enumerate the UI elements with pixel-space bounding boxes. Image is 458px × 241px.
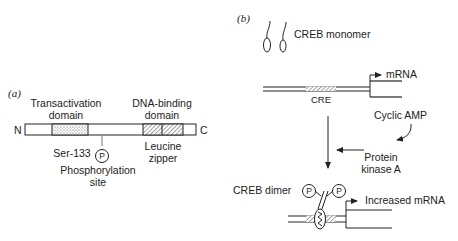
panel-b: (b) CREB monomer CRE mRNA Cyclic AMP Pro… [233, 12, 445, 229]
pka-label-2: kinase A [361, 163, 401, 175]
pka-label-1: Protein [364, 151, 397, 163]
increased-mrna-label: Increased mRNA [365, 194, 445, 206]
transactivation-label-1: Transactivation [31, 97, 102, 109]
creb-dimer-icon: P P [288, 185, 392, 230]
creb-monomer-label: CREB monomer [294, 28, 371, 40]
cyclic-amp-label: Cyclic AMP [374, 109, 427, 121]
increased-transcription-arrow-icon [346, 201, 357, 210]
panel-b-label: (b) [237, 12, 250, 25]
creb-monomer-icon [264, 21, 287, 52]
panel-a-label: (a) [8, 87, 21, 100]
dna-binding-label-2: domain [145, 109, 180, 121]
dimer-p-right-symbol: P [336, 186, 342, 196]
c-terminus-label: C [200, 124, 208, 136]
panel-a: (a) Transactivation domain DNA-binding d… [8, 87, 208, 188]
ser133-label: Ser-133 [53, 147, 91, 159]
transactivation-domain-region [52, 124, 88, 135]
transcription-start-arrow-icon [370, 75, 381, 81]
n-terminus-label: N [14, 124, 22, 136]
creb-dimer-label: CREB dimer [233, 184, 292, 196]
transactivation-label-2: domain [49, 109, 84, 121]
cre-label: CRE [311, 94, 331, 105]
camp-to-pka-arrow-icon [397, 124, 411, 140]
dna-with-cre [263, 81, 402, 97]
dimer-p-left-symbol: P [306, 186, 312, 196]
leucine-label-1: Leucine [145, 140, 182, 152]
creb-diagram: (a) Transactivation domain DNA-binding d… [0, 0, 458, 241]
dna-binding-domain-region [143, 124, 183, 135]
cre-element [306, 87, 336, 92]
phospho-p-symbol: P [99, 151, 105, 161]
phosphorylation-label-1: Phosphorylation [60, 164, 135, 176]
mrna-label: mRNA [386, 68, 417, 80]
leucine-label-2: zipper [149, 152, 178, 164]
dna-binding-label-1: DNA-binding [132, 97, 192, 109]
phosphorylation-label-2: site [90, 176, 107, 188]
